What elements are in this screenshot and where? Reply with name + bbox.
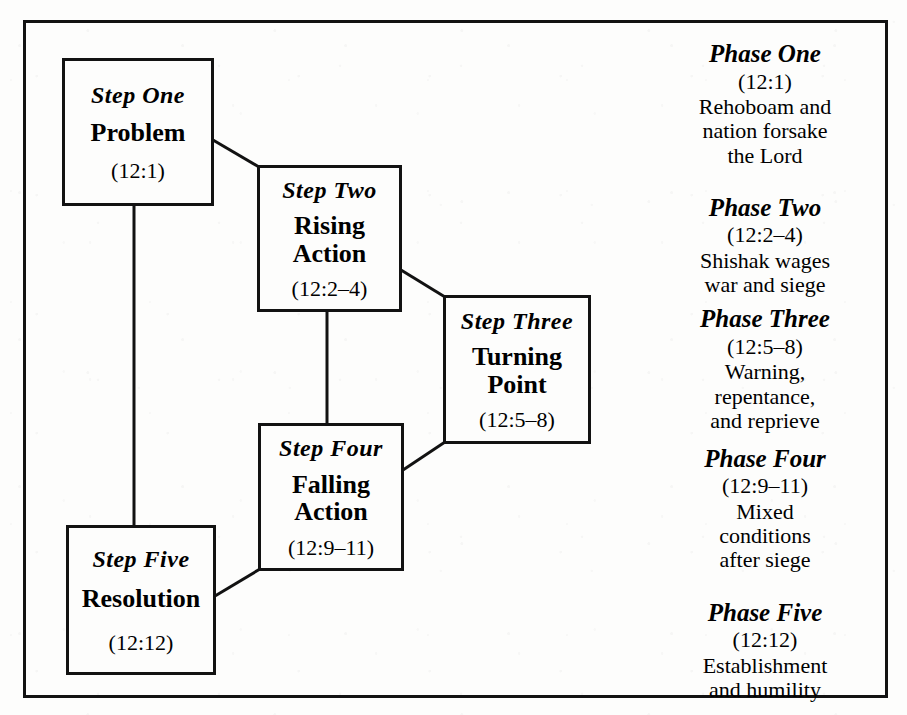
step-title-line-2: Action [293, 240, 367, 268]
step-box-step-four[interactable]: Step Four Falling Action (12:9–11) [258, 423, 404, 571]
step-box-step-one[interactable]: Step One Problem (12:1) [62, 58, 214, 206]
step-label: Step Five [92, 545, 189, 573]
step-box-step-five[interactable]: Step Five Resolution (12:12) [66, 525, 216, 675]
phase-block-phase-four: Phase Four (12:9–11) Mixed conditions af… [640, 445, 890, 573]
phase-description: Establishment and humility [640, 654, 890, 702]
step-reference: (12:9–11) [288, 536, 374, 560]
phase-block-phase-one: Phase One (12:1) Rehoboam and nation for… [640, 40, 890, 168]
phase-description: Rehoboam and nation forsake the Lord [640, 95, 890, 168]
phase-reference: (12:12) [640, 628, 890, 653]
step-reference: (12:2–4) [292, 277, 368, 301]
step-title-line-1: Falling [292, 471, 370, 499]
phase-description: Warning, repentance, and reprieve [640, 360, 890, 433]
phase-list: Phase One (12:1) Rehoboam and nation for… [640, 40, 890, 702]
step-title-line-1: Rising [293, 212, 367, 240]
phase-reference: (12:9–11) [640, 474, 890, 499]
phase-reference: (12:5–8) [640, 335, 890, 360]
phase-name: Phase Four [640, 445, 890, 473]
step-label: Step Three [461, 307, 573, 335]
phase-block-phase-three: Phase Three (12:5–8) Warning, repentance… [640, 305, 890, 433]
phase-reference: (12:2–4) [640, 223, 890, 248]
step-title-line-1: Turning [472, 343, 562, 371]
step-box-step-two[interactable]: Step Two Rising Action (12:2–4) [257, 165, 402, 312]
step-reference: (12:1) [111, 159, 165, 183]
diagram-page: Step One Problem (12:1) Step Two Rising … [0, 0, 907, 715]
phase-name: Phase Three [640, 305, 890, 333]
phase-name: Phase One [640, 40, 890, 68]
connector-step-three-to-step-four [403, 442, 445, 470]
step-label: Step Two [282, 176, 376, 204]
phase-block-phase-two: Phase Two (12:2–4) Shishak wages war and… [640, 194, 890, 298]
phase-description: Shishak wages war and siege [640, 249, 890, 297]
step-title: Falling Action [292, 471, 370, 526]
step-title: Turning Point [472, 343, 562, 398]
connector-step-one-to-step-two [213, 140, 259, 167]
step-title-line-2: Action [292, 498, 370, 526]
phase-reference: (12:1) [640, 70, 890, 95]
step-box-step-three[interactable]: Step Three Turning Point (12:5–8) [443, 295, 591, 444]
step-label: Step Four [279, 434, 383, 462]
phase-description: Mixed conditions after siege [640, 500, 890, 573]
connector-step-four-to-step-five [215, 569, 260, 596]
step-label: Step One [91, 81, 185, 109]
phase-name: Phase Five [640, 599, 890, 627]
connector-step-two-to-step-three [401, 270, 445, 297]
phase-name: Phase Two [640, 194, 890, 222]
step-title-line-2: Point [472, 371, 562, 399]
step-reference: (12:5–8) [479, 408, 555, 432]
step-title: Problem [91, 119, 186, 147]
step-title: Resolution [82, 585, 200, 613]
step-title: Rising Action [293, 212, 367, 267]
step-reference: (12:12) [109, 631, 174, 655]
phase-block-phase-five: Phase Five (12:12) Establishment and hum… [640, 599, 890, 703]
